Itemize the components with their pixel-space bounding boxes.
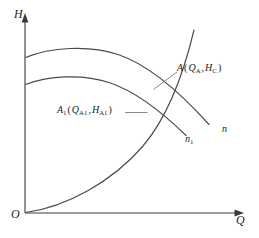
leader-line-point-a [154, 72, 178, 90]
point-a1-h-subscript: A1 [99, 109, 107, 116]
point-a1-close-paren: ) [107, 104, 112, 115]
system-resistance-curve [26, 30, 195, 213]
diagram-canvas [0, 0, 259, 238]
y-axis-label: H [14, 8, 23, 20]
point-a-q-var: Q [188, 62, 195, 73]
point-a-close-paren: ) [217, 62, 222, 73]
point-label-a1: A1(QA1,HA1) [57, 105, 113, 115]
pump-curve-n [26, 48, 210, 124]
point-a1-q-subscript: A1 [79, 109, 87, 116]
point-a1-q-var: Q [72, 104, 79, 115]
origin-label: O [11, 208, 20, 220]
curve-label-n1: n1 [185, 134, 193, 144]
point-a1-name-subscript: 1 [63, 109, 66, 116]
point-a-q-subscript: A [196, 67, 201, 74]
point-a-h-subscript: C [212, 67, 217, 74]
point-label-a: A(QA,HC) [177, 63, 222, 73]
curve-label-n1-subscript: 1 [190, 138, 193, 145]
x-axis-label: Q [236, 214, 245, 226]
pump-characteristic-diagram: H Q O n n1 A(QA,HC) A1(QA1,HA1) [0, 0, 259, 238]
curve-label-n: n [222, 124, 227, 134]
